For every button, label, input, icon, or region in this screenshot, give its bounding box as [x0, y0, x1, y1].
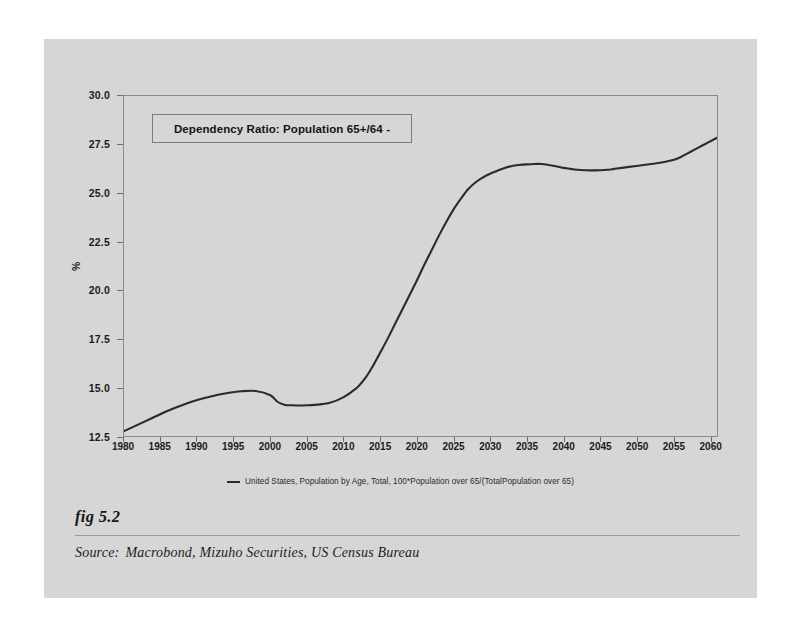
y-axis-title: %	[70, 262, 82, 271]
y-axis-tick-label: 22.5	[89, 236, 110, 248]
source-text: Macrobond, Mizuho Securities, US Census …	[125, 545, 419, 560]
y-axis-tick-label: 20.0	[89, 284, 110, 296]
legend-label: United States, Population by Age, Total,…	[245, 477, 574, 486]
x-axis-tick-label: 2050	[626, 441, 648, 452]
x-axis-tick-label: 2020	[406, 441, 428, 452]
x-axis-tick-label: 2040	[553, 441, 575, 452]
x-axis-tick-label: 2060	[700, 441, 722, 452]
chart-title-box: Dependency Ratio: Population 65+/64 -	[152, 114, 412, 143]
chart-title: Dependency Ratio: Population 65+/64 -	[174, 123, 390, 135]
y-axis-tick-label: 30.0	[89, 89, 110, 101]
y-axis-tick-label: 17.5	[89, 333, 110, 345]
plot-area	[123, 95, 718, 437]
x-axis-tick-label: 2005	[296, 441, 318, 452]
x-axis-tick-label: 2010	[332, 441, 354, 452]
x-axis-tick-label: 1980	[112, 441, 134, 452]
chart-legend: United States, Population by Age, Total,…	[44, 477, 757, 486]
x-axis-tick-labels: 1980198519901995200020052010201520202025…	[123, 441, 718, 457]
caption-divider	[75, 535, 740, 536]
figure-page: 12.515.017.520.022.525.027.530.0 % 19801…	[44, 39, 757, 598]
x-axis-tick-label: 2015	[369, 441, 391, 452]
x-axis-tick-label: 1990	[185, 441, 207, 452]
x-axis-tick-label: 2035	[516, 441, 538, 452]
line-series-svg	[124, 96, 717, 436]
y-axis-tick-label: 27.5	[89, 138, 110, 150]
source-line: Source:Macrobond, Mizuho Securities, US …	[75, 545, 419, 561]
x-axis-tick-label: 1985	[149, 441, 171, 452]
y-axis-tick-label: 12.5	[89, 431, 110, 443]
figure-number: fig 5.2	[75, 507, 120, 527]
x-axis-tick-label: 2025	[442, 441, 464, 452]
y-axis-tick-label: 15.0	[89, 382, 110, 394]
chart-figure: 12.515.017.520.022.525.027.530.0 % 19801…	[44, 39, 757, 504]
source-label: Source:	[75, 545, 119, 560]
x-axis-tick-label: 2030	[479, 441, 501, 452]
figure-caption-block: fig 5.2 Source:Macrobond, Mizuho Securit…	[44, 505, 757, 598]
x-axis-tick-label: 1995	[222, 441, 244, 452]
y-axis-tick-label: 25.0	[89, 187, 110, 199]
x-axis-tick-label: 2045	[589, 441, 611, 452]
x-axis-tick-label: 2055	[663, 441, 685, 452]
x-axis-tick-label: 2000	[259, 441, 281, 452]
series-line-path	[124, 138, 717, 431]
legend-line-swatch	[227, 481, 240, 483]
